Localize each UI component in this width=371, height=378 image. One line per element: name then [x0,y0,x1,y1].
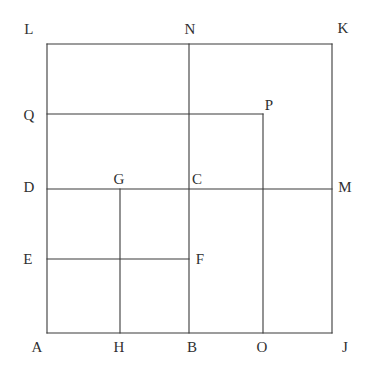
vertex-label-o: O [256,340,267,355]
vertex-label-h: H [113,340,124,355]
geometric-figure-canvas: LNKQPDGCMEFAHBOJ [0,0,371,378]
vertex-label-p: P [265,98,274,113]
figure-line-drawing [0,0,371,378]
vertex-label-j: J [342,340,348,355]
vertex-label-f: F [196,252,205,267]
vertex-label-d: D [23,180,34,195]
vertex-label-b: B [187,340,197,355]
vertex-label-e: E [23,252,32,267]
vertex-label-n: N [184,22,195,37]
vertex-label-l: L [24,22,33,37]
vertex-label-q: Q [23,108,34,123]
segment-group [47,44,332,333]
vertex-label-k: K [337,21,348,36]
vertex-label-a: A [31,340,42,355]
vertex-label-g: G [113,172,124,187]
vertex-label-m: M [338,180,352,195]
vertex-label-c: C [192,172,202,187]
